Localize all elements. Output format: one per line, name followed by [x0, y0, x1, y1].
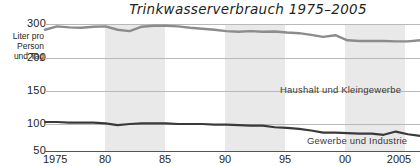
x-tick-85: 85 [159, 153, 171, 165]
y-tick-150: 150 [2, 85, 46, 96]
x-tick-95: 95 [279, 153, 291, 165]
y-axis-label: Liter pro Person und Tag [0, 31, 44, 61]
annotation-haushalt: Haushalt und Kleingewerbe [280, 84, 401, 95]
y-tick-100: 100 [2, 118, 46, 129]
y-tick-300: 300 [2, 18, 46, 29]
chart-title-text: Trinkwasserverbrauch 1975–2005 [129, 1, 367, 17]
x-tick-2005: 2005 [387, 153, 411, 165]
x-tick-00: 00 [339, 153, 351, 165]
chart-title: Trinkwasserverbrauch 1975–2005 [0, 1, 412, 17]
x-tick-80: 80 [99, 153, 111, 165]
x-tick-90: 90 [219, 153, 231, 165]
line-gewerbe-und-industrie [45, 122, 420, 136]
plot-area: Haushalt und Kleingewerbe Gewerbe und In… [45, 24, 420, 152]
y-axis-label-line-1: Liter pro [0, 31, 44, 41]
y-axis-label-line-2: Person [0, 41, 44, 51]
chart-root: Trinkwasserverbrauch 1975–2005 300 200 1… [0, 0, 420, 166]
annotation-gewerbe: Gewerbe und Industrie [307, 135, 407, 146]
y-tick-50: 50 [2, 145, 46, 156]
y-axis-label-line-3: und Tag [0, 51, 44, 61]
line-haushalt-und-kleingewerbe [45, 26, 420, 42]
x-tick-1975: 1975 [43, 153, 67, 165]
